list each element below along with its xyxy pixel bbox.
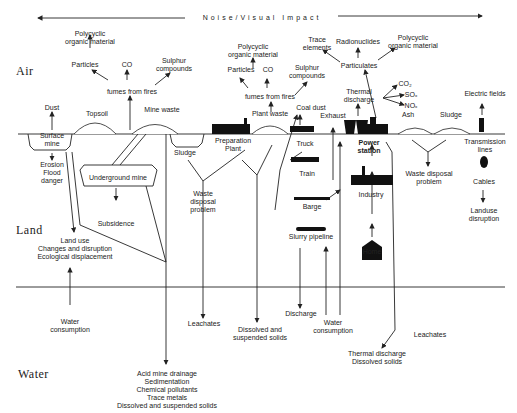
cable-reel-icon [480, 156, 488, 168]
label-sludge1: Sludge [174, 149, 196, 157]
label-water-consumption1: Water consumption [50, 318, 90, 334]
label-cables: Cables [473, 178, 495, 186]
truck-icon [290, 126, 314, 132]
label-subsidence: Subsidence [98, 220, 135, 228]
label-barge: Barge [303, 203, 322, 211]
barge-icon [294, 197, 330, 200]
label-home: Home [363, 248, 382, 256]
label-waste-disposal1: Waste disposal problem [190, 190, 216, 214]
label-preparation-plant: Preparation Plant [215, 137, 251, 153]
label-particles1: Particles [72, 61, 99, 69]
label-leachates2: Leachates [414, 331, 446, 339]
label-topsoil: Topsoil [86, 110, 108, 118]
train-icon [291, 157, 319, 162]
preparation-plant-icon [212, 124, 250, 134]
label-electric-fields: Electric fields [464, 90, 505, 98]
label-gas-sox: SOₓ [405, 91, 417, 99]
label-co2: CO [263, 66, 274, 74]
label-sludge2: Sludge [440, 111, 462, 119]
label-train: Train [299, 170, 315, 178]
label-discharge: Discharge [285, 310, 317, 318]
label-coal-dust: Coal dust [296, 104, 326, 112]
label-industry: Industry [359, 191, 384, 199]
industry-icon [351, 175, 393, 185]
label-waste-disposal2: Waste disposal problem [405, 170, 452, 186]
label-poly1: Polycyclic organic material [65, 30, 115, 46]
label-mine-waste: Mine waste [144, 106, 179, 114]
label-dissolved-solids: Dissolved and suspended solids [233, 326, 287, 342]
label-thermal-water: Thermal discharge Dissolved solids [348, 350, 406, 366]
label-ash: Ash [402, 111, 414, 119]
label-leachates1: Leachates [188, 320, 220, 328]
cooling-tower-icon [344, 120, 356, 134]
label-trace-elements: Trace elements [303, 36, 331, 52]
label-sulphur1: Sulphur compounds [156, 57, 192, 73]
label-water-consumption2: Water consumption [313, 319, 353, 335]
label-fumes1: fumes from fires [107, 88, 157, 96]
label-transmission-lines: Transmission lines [464, 138, 505, 154]
label-power-station: Power station [358, 139, 381, 155]
zone-air: Air [16, 64, 34, 79]
transmission-tower-icon [479, 118, 484, 132]
slurry-pipeline-icon [296, 227, 326, 231]
label-erosion: Erosion Flood danger [40, 161, 64, 185]
label-thermal-discharge: Thermal discharge [344, 88, 374, 104]
zone-water: Water [18, 367, 49, 382]
label-particulates: Particulates [341, 62, 378, 70]
label-co1: CO [122, 61, 133, 69]
label-gas-nox: NOₓ [405, 102, 418, 110]
label-poly2: Polycyclic organic material [228, 43, 278, 59]
label-radionuclides: Radionuclides [336, 38, 380, 46]
label-fumes2: fumes from fires [245, 93, 295, 101]
label-poly3: Polycyclic organic material [388, 34, 438, 50]
zone-land: Land [16, 223, 43, 238]
label-slurry-pipeline: Slurry pipeline [289, 233, 333, 241]
label-gas-co2: CO₂ [398, 80, 411, 88]
label-land-use: Land use Changes and disruption Ecologic… [37, 237, 112, 261]
label-underground-mine: Underground mine [89, 174, 147, 182]
coal-fuel-cycle-impact-diagram: Noise/Visual Impact Air Land Water Polyc… [0, 0, 517, 413]
label-surface-mine: Surface mine [40, 132, 64, 148]
label-dust: Dust [45, 104, 59, 112]
label-landuse-disruption: Landuse disruption [469, 207, 499, 223]
label-sulphur2: Sulphur compounds [289, 64, 325, 80]
label-exhaust: Exhaust [320, 112, 345, 120]
noise-visual-impact-label: Noise/Visual Impact [203, 14, 322, 21]
label-particles2: Particles [228, 66, 255, 74]
label-acid-drainage: Acid mine drainage Sedimentation Chemica… [117, 370, 217, 410]
label-plant-waste: Plant waste [252, 110, 288, 118]
label-truck: Truck [296, 140, 313, 148]
